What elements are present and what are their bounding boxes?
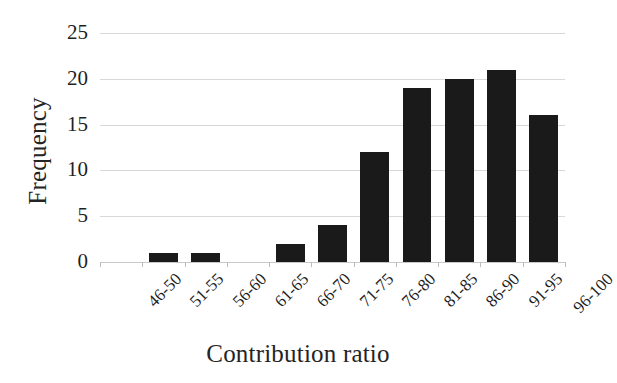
plot-area [100,33,565,262]
bar [360,152,389,262]
x-axis-tick-label: 46-50 [145,270,185,310]
bar [487,70,516,262]
x-axis-tick-label: 91-95 [525,270,565,310]
bar [445,79,474,262]
x-axis-tick-label: 76-80 [398,270,438,310]
x-axis-tick-label: 81-85 [441,270,481,310]
bar [149,253,178,262]
x-axis-tick-label: 66-70 [314,270,354,310]
y-axis-tick-label: 25 [36,22,88,43]
x-axis-title: Contribution ratio [0,340,596,368]
bar [403,88,432,262]
x-axis-tick-label: 71-75 [356,270,396,310]
gridline [100,33,565,34]
y-axis-tick-label: 0 [36,251,88,272]
x-axis-tick-label: 86-90 [483,270,523,310]
y-axis-tick-label: 5 [36,205,88,226]
x-axis-tick-label: 96-100 [570,270,616,316]
bar [276,244,305,262]
bar [529,115,558,262]
y-axis-tick-label: 10 [36,159,88,180]
x-axis-tick-labels: 46-5051-5556-6061-6566-7071-7576-8081-85… [100,262,565,337]
x-axis-tick-mark [565,262,566,267]
x-axis-tick-label: 51-55 [187,270,227,310]
x-axis-tick-label: 56-60 [229,270,269,310]
y-axis-tick-label: 20 [36,68,88,89]
bar [191,253,220,262]
x-axis-tick-label: 61-65 [272,270,312,310]
bar [318,225,347,262]
y-axis-tick-label: 15 [36,114,88,135]
